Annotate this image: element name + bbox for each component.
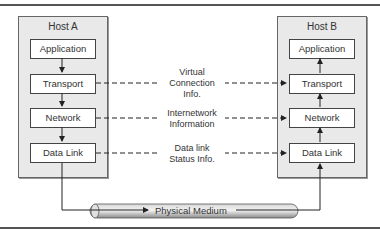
physical-medium-label: Physical Medium xyxy=(155,205,227,216)
label-line: Internetwork xyxy=(160,108,224,119)
virtual-connection-label: Virtual Connection Info. xyxy=(159,67,225,100)
label-line: Status Info. xyxy=(160,154,224,165)
datalink-status-label: Data link Status Info. xyxy=(159,143,225,165)
label-line: Information xyxy=(160,119,224,130)
label-line: Data link xyxy=(160,143,224,154)
label-line: Info. xyxy=(160,89,224,100)
internetwork-label: Internetwork Information xyxy=(159,108,225,130)
label-line: Connection xyxy=(160,78,224,89)
label-line: Virtual xyxy=(160,67,224,78)
